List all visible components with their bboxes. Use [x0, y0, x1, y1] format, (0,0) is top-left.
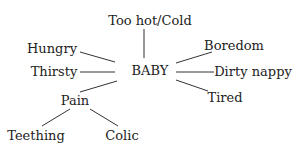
mind-map-diagram: BABY Too hot/Cold Hungry Thirsty Pain Te…: [0, 0, 300, 154]
node-too-hot-cold: Too hot/Cold: [108, 14, 192, 27]
node-tired: Tired: [207, 91, 242, 104]
edge-baby-tired: [176, 80, 208, 91]
node-boredom: Boredom: [204, 39, 264, 52]
edge-pain-teething: [42, 109, 70, 126]
node-colic: Colic: [105, 129, 138, 142]
edge-pain-colic: [90, 109, 118, 126]
edge-baby-boredom: [176, 52, 212, 63]
node-baby: BABY: [132, 64, 169, 77]
node-teething: Teething: [7, 129, 65, 142]
node-hungry: Hungry: [27, 42, 77, 55]
edge-baby-hungry: [80, 52, 115, 62]
node-pain: Pain: [61, 94, 89, 107]
node-dirty-nappy: Dirty nappy: [214, 65, 292, 78]
node-thirsty: Thirsty: [31, 65, 78, 78]
edge-baby-pain: [80, 81, 117, 92]
